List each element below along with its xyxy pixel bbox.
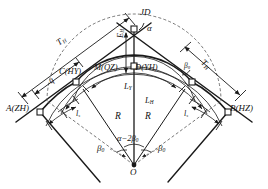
label-ls-right: ls [184,110,188,119]
label-beta-left: β0 [97,144,104,154]
label-radius-left: R [115,112,121,122]
dimension-ls-right [192,107,219,124]
label-lh: LH [145,96,154,105]
marker-a-zh [37,109,43,115]
label-external: EH [116,29,125,38]
dimension-tangent-right [180,42,246,101]
label-ly: LY [124,82,132,91]
label-ls-left: ls [76,110,80,119]
dimension-ls-left [49,107,76,124]
marker-c-hy [73,79,79,85]
label-b-hz: B(HZ) [230,104,253,113]
label-c-hy: C(HY) [59,67,81,76]
label-alpha: α [147,24,152,33]
label-d-yh: D(YH) [135,63,158,72]
marker-jd [131,26,137,32]
label-radius-right: R [145,112,151,122]
curve-diagram-canvas: JD α TH TH EH q A(ZH) B(HZ) C(HY) M(QZ) … [0,0,268,189]
marker-d-yh [189,79,195,85]
curve-diagram-svg [0,0,268,189]
label-beta-small: β0 [184,62,190,71]
label-a-zh: A(ZH) [6,104,29,113]
label-beta-right: β0 [158,144,165,154]
label-jd: JD [140,8,151,17]
label-m-qz: M(QZ) [94,63,118,72]
label-alpha-minus-2beta: α−2β0 [117,134,138,143]
label-o: O [130,168,137,177]
